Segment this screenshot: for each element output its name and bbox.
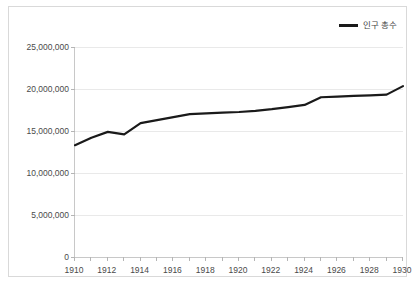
x-axis-label: 1924 [294,265,313,275]
x-tick-1916 [172,257,173,261]
x-tick-1927 [353,257,354,261]
x-tick-1930 [402,257,403,261]
x-tick-1912 [107,257,108,261]
y-axis-label: 0 [64,252,69,262]
x-tick-1920 [238,257,239,261]
legend-label-population-total: 인구 총수 [363,20,397,30]
x-tick-1929 [386,257,387,261]
x-axis-label: 1928 [360,265,379,275]
x-axis-label: 1918 [196,265,215,275]
x-tick-1913 [123,257,124,261]
y-axis-label: 25,000,000 [26,42,69,52]
x-axis-label: 1922 [261,265,280,275]
chart-frame: 인구 총수 05,000,00010,000,00015,000,00020,0… [8,6,407,277]
x-tick-1928 [369,257,370,261]
x-tick-1925 [320,257,321,261]
x-axis-label: 1920 [229,265,248,275]
x-tick-1922 [271,257,272,261]
chart-legend: 인구 총수 [339,19,397,31]
x-axis-label: 1910 [65,265,84,275]
x-axis-label: 1930 [393,265,412,275]
x-tick-1924 [304,257,305,261]
x-tick-1915 [156,257,157,261]
plot-area: 05,000,00010,000,00015,000,00020,000,000… [74,41,402,257]
x-tick-1918 [205,257,206,261]
x-tick-1911 [90,257,91,261]
x-tick-1926 [336,257,337,261]
legend-line-swatch-icon [339,24,358,27]
y-axis-label: 15,000,000 [26,126,69,136]
x-axis-label: 1916 [163,265,182,275]
series-line-population-total [75,86,403,145]
y-axis-label: 5,000,000 [31,210,69,220]
y-axis-label: 10,000,000 [26,168,69,178]
x-tick-1914 [140,257,141,261]
x-axis-labels: 1910191219141916191819201922192419261928… [74,257,402,283]
x-tick-1910 [74,257,75,261]
x-tick-1923 [287,257,288,261]
x-tick-1919 [222,257,223,261]
series-layer [75,47,403,257]
x-axis-label: 1926 [327,265,346,275]
plot-inner: 05,000,00010,000,00015,000,00020,000,000… [74,47,402,257]
x-tick-1917 [189,257,190,261]
x-tick-1921 [254,257,255,261]
x-axis-label: 1914 [130,265,149,275]
y-axis-label: 20,000,000 [26,84,69,94]
x-axis-label: 1912 [97,265,116,275]
